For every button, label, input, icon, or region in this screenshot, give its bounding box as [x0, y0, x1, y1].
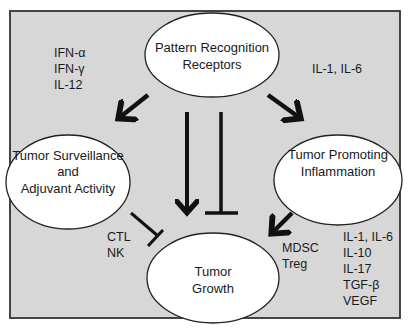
- label-text: TGF-β: [343, 278, 379, 292]
- label-text: IFN-γ: [54, 62, 85, 76]
- immune-tumor-diagram: Pattern Recognition Receptors Tumor Surv…: [0, 0, 408, 332]
- node-tumor-surveillance: Tumor Surveillance and Adjuvant Activity: [6, 135, 130, 229]
- node-label: Growth: [192, 281, 234, 296]
- node-label: Inflammation: [301, 164, 375, 179]
- label-inflammation-cytokines: IL-1, IL-6: [312, 62, 362, 76]
- label-text: IL-1, IL-6: [343, 230, 393, 244]
- node-tumor-promoting-inflammation: Tumor Promoting Inflammation: [274, 135, 402, 225]
- label-text: IFN-α: [54, 46, 86, 60]
- node-label: Tumor Surveillance: [12, 148, 124, 163]
- node-label: Receptors: [182, 57, 242, 72]
- label-text: IL-10: [343, 246, 372, 260]
- node-label: Adjuvant Activity: [21, 181, 116, 196]
- label-text: IL-1, IL-6: [312, 62, 362, 76]
- label-text: IL-12: [54, 78, 83, 92]
- label-text: Treg: [282, 257, 307, 271]
- label-text: VEGF: [343, 294, 377, 308]
- node-pattern-recognition-receptors: Pattern Recognition Receptors: [145, 13, 279, 97]
- node-label: and: [57, 164, 79, 179]
- node-label: Tumor Promoting: [288, 147, 388, 162]
- label-surveillance-cytokines: IFN-α IFN-γ IL-12: [54, 46, 86, 92]
- label-text: NK: [107, 246, 125, 260]
- node-label: Pattern Recognition: [155, 40, 269, 55]
- label-text: CTL: [107, 230, 131, 244]
- label-text: MDSC: [282, 241, 319, 255]
- node-tumor-growth: Tumor Growth: [147, 233, 279, 323]
- node-label: Tumor: [194, 264, 232, 279]
- label-text: IL-17: [343, 262, 372, 276]
